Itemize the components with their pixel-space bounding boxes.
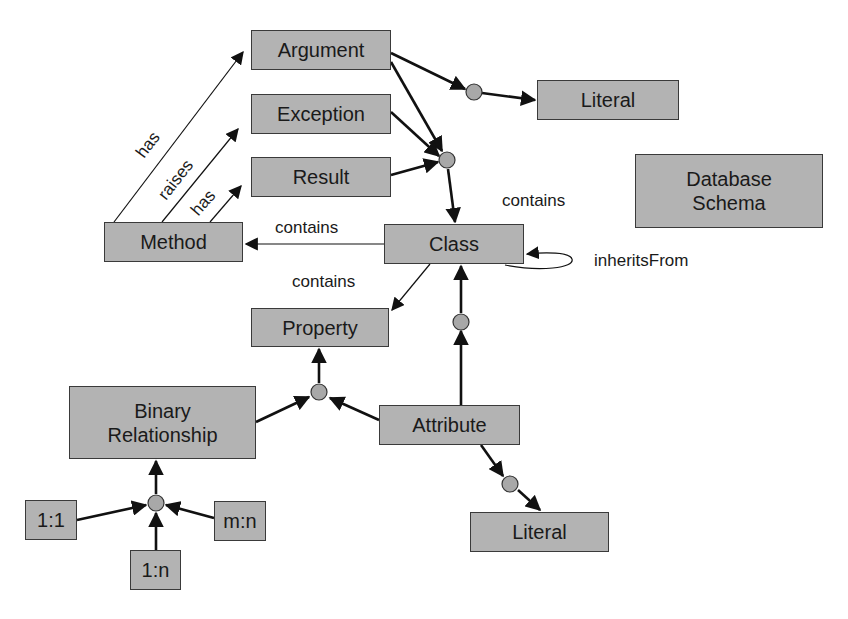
node-class: Class xyxy=(384,224,524,264)
diagram-canvas xyxy=(0,0,848,619)
edge-cardinalities xyxy=(77,461,214,550)
node-literal-bottom: Literal xyxy=(470,512,609,552)
node-literal-top: Literal xyxy=(537,80,679,120)
node-method: Method xyxy=(104,222,243,262)
edge-argument-literal xyxy=(391,53,535,100)
junction-property xyxy=(311,384,327,400)
node-property: Property xyxy=(251,308,389,347)
node-argument: Argument xyxy=(251,30,391,70)
node-exception: Exception xyxy=(251,94,391,134)
label-class-contains-members: contains xyxy=(502,191,565,211)
edge-members-class xyxy=(391,62,455,222)
label-class-inherits-from: inheritsFrom xyxy=(594,251,688,271)
junction-attribute-literal xyxy=(502,476,518,492)
label-class-contains-property: contains xyxy=(292,272,355,292)
node-one-to-one: 1:1 xyxy=(25,500,77,540)
junction-cardinality xyxy=(148,495,164,511)
node-one-to-many: 1:n xyxy=(130,550,181,590)
node-binary-relationship: Binary Relationship xyxy=(69,386,256,459)
node-attribute: Attribute xyxy=(379,405,520,445)
node-result: Result xyxy=(251,157,391,197)
junction-class-members xyxy=(439,152,455,168)
junction-argument-literal xyxy=(466,84,482,100)
label-class-contains-method: contains xyxy=(275,218,338,238)
junction-attribute-class xyxy=(453,314,469,330)
node-database-schema: Database Schema xyxy=(635,154,823,228)
node-many-to-many: m:n xyxy=(214,501,266,541)
edge-class-contains-property xyxy=(392,264,430,310)
edge-method-has-argument xyxy=(114,52,243,222)
